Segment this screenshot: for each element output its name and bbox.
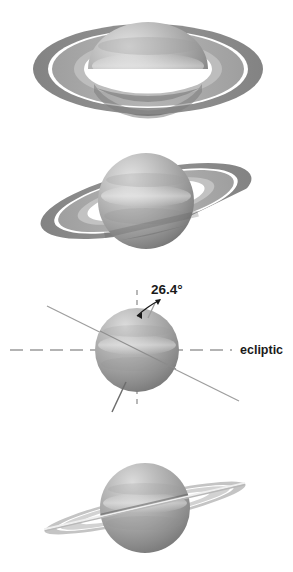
saturn-ring-orientation-figure: 26.4° ecliptic: [0, 0, 293, 572]
tilt-angle-label: 26.4°: [151, 282, 183, 297]
ecliptic-label: ecliptic: [240, 343, 283, 357]
figure-canvas: 26.4° ecliptic: [0, 0, 293, 572]
